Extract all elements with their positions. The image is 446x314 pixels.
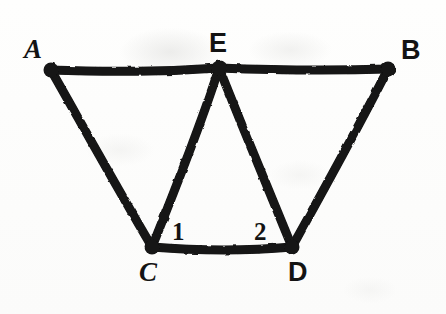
vertex-label-e: E — [209, 30, 227, 57]
angle-label-1: 1 — [172, 219, 185, 244]
vertex-label-a: A — [24, 36, 42, 63]
vertex-label-b: B — [401, 37, 421, 64]
vertex-dot-d — [285, 240, 300, 255]
vertex-dot-c — [145, 240, 160, 255]
edge-e-b — [219, 68, 388, 70]
edge-c-d — [152, 247, 292, 250]
vertex-label-c: C — [139, 259, 157, 286]
vertex-dot-e — [212, 61, 227, 76]
geometry-figure: A E B C D 1 2 — [0, 0, 446, 314]
vertex-label-d: D — [288, 259, 308, 286]
edge-a-e — [51, 68, 219, 71]
angle-label-2: 2 — [254, 219, 267, 244]
edge-a-c — [51, 70, 152, 247]
edge-e-c — [152, 68, 219, 247]
edge-b-d — [292, 69, 388, 247]
vertex-dot-b — [381, 62, 396, 77]
vertex-dot-a — [44, 63, 59, 78]
